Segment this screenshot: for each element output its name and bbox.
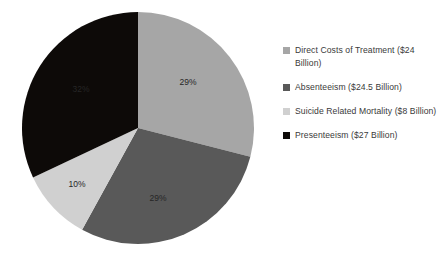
legend-item-label: Absenteeism ($24.5 Billion) <box>295 81 402 94</box>
chart-legend: Direct Costs of Treatment ($24 Billion)A… <box>283 44 443 153</box>
pie-data-label: 10% <box>68 179 85 189</box>
pie-data-label: 29% <box>179 77 196 87</box>
legend-swatch-icon <box>283 108 290 115</box>
legend-swatch-icon <box>283 132 290 139</box>
pie-chart-figure: 29%29%10%32% Direct Costs of Treatment (… <box>0 0 446 263</box>
legend-swatch-icon <box>283 47 290 54</box>
pie-slice-group <box>22 12 254 244</box>
legend-swatch-icon <box>283 84 290 91</box>
legend-item-label: Direct Costs of Treatment ($24 Billion) <box>295 44 443 70</box>
legend-item-label: Presenteeism ($27 Billion) <box>295 129 398 142</box>
pie-data-label: 29% <box>149 193 166 203</box>
legend-item-label: Suicide Related Mortality ($8 Billion) <box>295 105 436 118</box>
pie-plot-area: 29%29%10%32% <box>0 0 276 263</box>
legend-item[interactable]: Absenteeism ($24.5 Billion) <box>283 81 443 94</box>
legend-item[interactable]: Suicide Related Mortality ($8 Billion) <box>283 105 443 118</box>
pie-svg: 29%29%10%32% <box>0 0 276 263</box>
pie-data-label: 32% <box>72 84 89 94</box>
legend-item[interactable]: Presenteeism ($27 Billion) <box>283 129 443 142</box>
legend-item[interactable]: Direct Costs of Treatment ($24 Billion) <box>283 44 443 70</box>
